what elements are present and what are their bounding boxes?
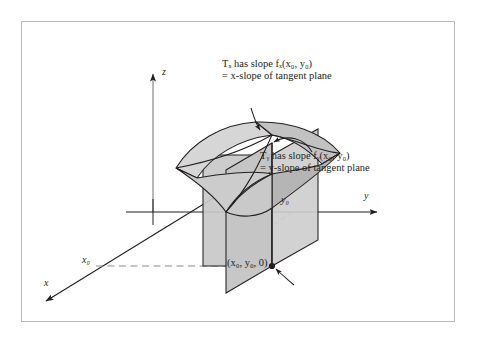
annotation-base-point: (x₀, y₀, 0): [227, 257, 268, 269]
annotation-ty-line2: = y-slope of tangent plane: [260, 162, 370, 174]
axis-tick-label-x0: x₀: [82, 254, 90, 266]
axis-tick-label-y0: y₀: [281, 194, 289, 206]
figure-frame: Tₓ has slope fₓ(x₀, y₀) = x-slope of tan…: [21, 21, 455, 322]
annotation-tx-line2: = x-slope of tangent plane: [222, 70, 332, 82]
annotation-ty-line1: Tᵧ has slope fᵧ(x₀, y₀): [260, 150, 350, 161]
annotation-tx: Tₓ has slope fₓ(x₀, y₀) = x-slope of tan…: [222, 58, 332, 83]
base-point-dot: [269, 263, 275, 269]
annotation-ty: Tᵧ has slope fᵧ(x₀, y₀) = y-slope of tan…: [260, 150, 370, 175]
figure-canvas: Tₓ has slope fₓ(x₀, y₀) = x-slope of tan…: [0, 0, 477, 344]
leader-arrow-base-point: [276, 269, 294, 285]
axis-label-x: x: [44, 277, 48, 289]
annotation-tx-line1: Tₓ has slope fₓ(x₀, y₀): [222, 58, 312, 69]
axis-label-y: y: [364, 190, 368, 202]
axis-label-z: z: [162, 66, 166, 78]
